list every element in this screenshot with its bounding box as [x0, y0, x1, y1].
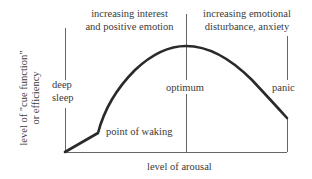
deep-sleep-label: deep sleep — [52, 78, 74, 104]
sleep-label: sleep — [52, 91, 74, 104]
right-region-line2: disturbance, anxiety — [188, 20, 306, 33]
left-region-line2: and positive emotion — [72, 20, 187, 33]
left-region-label: increasing interest and positive emotion — [72, 7, 187, 33]
deep-label: deep — [52, 78, 74, 91]
x-axis-label: level of arousal — [147, 160, 212, 173]
point-of-waking-label: point of waking — [106, 125, 173, 138]
right-region-label: increasing emotional disturbance, anxiet… — [188, 7, 306, 33]
optimum-label: optimum — [166, 81, 204, 94]
y-axis-label: level of "cue function" or efficiency — [18, 33, 42, 163]
y-axis-label-line2: or efficiency — [30, 33, 42, 163]
arousal-curve — [65, 46, 287, 152]
panic-label: panic — [272, 81, 295, 94]
left-region-line1: increasing interest — [72, 7, 187, 20]
right-region-line1: increasing emotional — [188, 7, 306, 20]
y-axis-label-line1: level of "cue function" — [18, 33, 30, 163]
